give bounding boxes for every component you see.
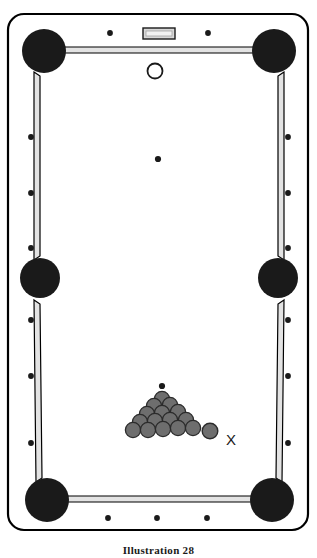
pool-table-diagram: X [0, 0, 317, 558]
diamond-right-1 [285, 134, 291, 140]
side-left-pocket [20, 258, 60, 298]
target-ball [202, 423, 218, 439]
top-right-pocket [252, 29, 296, 73]
top-left-pocket [22, 29, 66, 73]
diamond-right-6 [285, 440, 291, 446]
rack-ball [155, 421, 170, 436]
diamond-left-6 [28, 440, 34, 446]
diamond-bottom-right [204, 515, 210, 521]
diamond-left-2 [28, 190, 34, 196]
diamond-left-4 [28, 317, 34, 323]
diamond-left-3 [28, 245, 34, 251]
marker-x-label: X [226, 431, 236, 448]
rack-ball [125, 422, 140, 437]
rack-ball [140, 422, 155, 437]
right-upper-rail [278, 72, 284, 260]
bottom-rail [60, 496, 258, 502]
diamond-top-right [205, 30, 211, 36]
right-lower-rail [276, 300, 284, 482]
diamond-bottom-left [105, 515, 111, 521]
diamond-right-4 [285, 317, 291, 323]
diamond-top-left [107, 30, 113, 36]
diamond-bottom-center [154, 515, 160, 521]
bottom-right-pocket [250, 478, 294, 522]
diamond-right-3 [285, 245, 291, 251]
diamond-left-5 [28, 373, 34, 379]
rack-ball [185, 420, 200, 435]
center-spot [155, 156, 161, 162]
diamond-right-5 [285, 373, 291, 379]
table-name-plate-inner [146, 31, 172, 36]
left-lower-rail [34, 300, 42, 482]
side-right-pocket [258, 258, 298, 298]
figure-caption: Illustration 28 [0, 543, 317, 558]
diamond-left-1 [28, 134, 34, 140]
cue-ball [148, 64, 163, 79]
bottom-left-pocket [25, 478, 69, 522]
rack-ball [170, 420, 185, 435]
pool-table-illustration: X Illustration 28 [0, 0, 317, 558]
left-upper-rail [34, 72, 40, 260]
top-rail [58, 47, 262, 53]
diamond-right-2 [285, 190, 291, 196]
foot-spot [159, 383, 165, 389]
